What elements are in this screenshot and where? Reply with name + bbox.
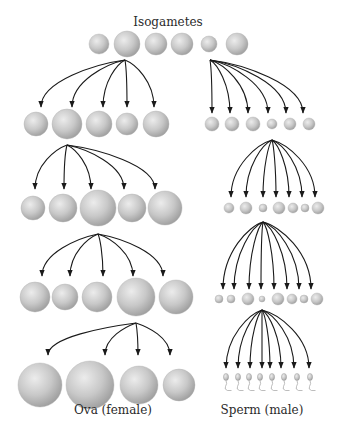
division-arrow <box>272 140 302 197</box>
division-arrow <box>262 310 294 368</box>
division-arrow <box>210 60 230 113</box>
sperm-cell <box>257 373 265 390</box>
male-gamete-cell <box>311 293 323 305</box>
male-gamete-cell <box>273 202 285 214</box>
ovum-cell <box>20 282 50 312</box>
ovum-cell <box>118 194 146 222</box>
division-arrow <box>136 323 138 355</box>
male-gamete-cell <box>267 119 277 129</box>
isogamete-cell <box>201 36 217 52</box>
ovum-cell <box>24 112 48 136</box>
male-gamete-cell <box>242 293 254 305</box>
sperm-cell <box>281 373 289 390</box>
male-gamete-cell <box>259 296 265 302</box>
division-arrow <box>35 145 67 189</box>
isogamete-cell <box>226 33 248 55</box>
ovum-cell <box>159 280 193 314</box>
ovum-cell <box>52 109 82 139</box>
male-gamete-cell <box>272 293 284 305</box>
division-arrow <box>210 60 286 113</box>
isogamete-cell <box>89 34 109 54</box>
division-arrow <box>125 60 154 107</box>
male-gamete-cell <box>301 204 309 212</box>
division-arrow <box>98 234 103 276</box>
division-arrow <box>272 140 276 197</box>
ovum-cell <box>117 278 155 316</box>
ovum-cell <box>86 111 112 137</box>
division-arrow <box>263 222 287 289</box>
division-arrow <box>64 145 67 189</box>
division-arrow <box>48 323 136 355</box>
ovum-cell <box>18 363 62 407</box>
division-arrow <box>261 222 263 289</box>
male-gamete-cell <box>312 202 324 214</box>
division-arrow <box>234 222 263 289</box>
ovum-cell <box>82 282 112 312</box>
division-arrow <box>41 60 125 107</box>
division-arrow <box>105 323 136 355</box>
division-arrow <box>210 60 212 113</box>
female-lineage <box>18 60 195 409</box>
ovum-cell <box>148 191 182 225</box>
male-gamete-cell <box>205 117 219 131</box>
division-arrow <box>98 234 163 276</box>
ovum-cell <box>66 361 114 409</box>
ovum-cell <box>49 194 77 222</box>
isogamete-cell <box>145 33 167 55</box>
male-lineage <box>205 60 324 391</box>
division-arrow <box>263 140 272 197</box>
ova-label: Ova (female) <box>74 403 152 417</box>
sperm-cell <box>294 373 302 390</box>
sperm-cell <box>307 373 315 390</box>
ovum-cell <box>21 196 45 220</box>
sperm-cell <box>269 373 277 390</box>
male-gamete-cell <box>284 118 296 130</box>
sperm-cell <box>246 373 254 390</box>
ovum-cell <box>52 284 78 310</box>
ovum-cell <box>116 113 138 135</box>
male-gamete-cell <box>259 204 267 212</box>
division-arrow <box>210 60 248 113</box>
male-gamete-cell <box>215 295 223 303</box>
division-arrow <box>103 60 125 107</box>
ovum-cell <box>120 366 158 404</box>
division-arrow <box>70 234 98 276</box>
sperm-label: Sperm (male) <box>221 403 304 417</box>
division-arrow <box>272 140 289 197</box>
sperm-cell <box>235 373 243 390</box>
ovum-cell <box>80 190 116 226</box>
male-gamete-cell <box>224 203 234 213</box>
division-arrow <box>250 310 262 368</box>
isogamete-cell <box>114 31 140 57</box>
male-gamete-cell <box>225 117 239 131</box>
isogamete-row <box>89 31 248 57</box>
male-gamete-cell <box>227 295 235 303</box>
isogamete-cell <box>171 33 193 55</box>
division-arrow <box>125 60 127 107</box>
male-gamete-cell <box>287 294 297 304</box>
male-gamete-cell <box>288 203 298 213</box>
sperm-cell <box>223 373 231 390</box>
ovum-cell <box>163 369 195 401</box>
division-arrow <box>136 323 170 355</box>
male-gamete-cell <box>303 118 315 130</box>
ovum-cell <box>143 111 169 137</box>
male-gamete-cell <box>240 202 252 214</box>
isogametes-label: Isogametes <box>133 15 203 29</box>
division-arrow <box>67 145 155 189</box>
male-gamete-cell <box>246 117 260 131</box>
male-gamete-cell <box>300 295 308 303</box>
anisogamy-diagram: Isogametes Ova (female) Sperm (male) <box>0 0 344 433</box>
division-arrow <box>226 310 262 368</box>
